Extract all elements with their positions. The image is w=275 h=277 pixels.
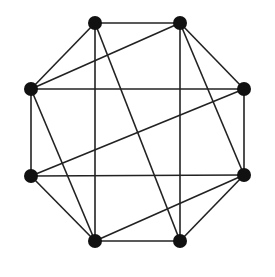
edges-group bbox=[31, 23, 244, 241]
edge-F-D bbox=[95, 175, 244, 241]
node-B bbox=[173, 16, 187, 30]
node-D bbox=[237, 168, 251, 182]
edge-H-A bbox=[31, 23, 95, 89]
node-G bbox=[24, 169, 38, 183]
edge-D-E bbox=[180, 175, 244, 241]
edge-G-D bbox=[31, 175, 244, 176]
node-C bbox=[237, 82, 251, 96]
edge-B-D bbox=[180, 23, 244, 175]
edge-F-G bbox=[31, 176, 95, 241]
node-A bbox=[88, 16, 102, 30]
node-H bbox=[24, 82, 38, 96]
node-F bbox=[88, 234, 102, 248]
edge-H-B bbox=[31, 23, 180, 89]
edge-H-F bbox=[31, 89, 95, 241]
node-E bbox=[173, 234, 187, 248]
edge-A-E bbox=[95, 23, 180, 241]
edge-B-C bbox=[180, 23, 244, 89]
graph-diagram bbox=[0, 0, 275, 277]
